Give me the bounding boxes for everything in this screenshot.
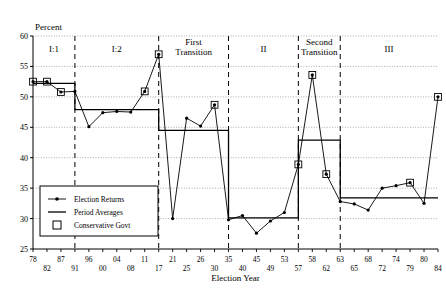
data-point-1882 [45, 80, 48, 83]
x-tick-label-1935: 35 [225, 255, 233, 264]
data-point-1878 [31, 80, 34, 83]
x-tick-label-1980: 80 [420, 255, 428, 264]
data-point-1935 [227, 218, 230, 221]
x-tick-label-1965: 65 [350, 264, 358, 273]
x-tick-label-1904: 04 [113, 255, 121, 264]
data-point-1968 [367, 208, 370, 211]
x-tick-label-1926: 26 [197, 255, 205, 264]
legend-label-conservative-govt: Conservative Govt [74, 221, 131, 230]
period-label-3: II [260, 44, 266, 54]
x-tick-label-1891: 91 [71, 264, 79, 273]
data-point-1963 [339, 200, 342, 203]
y-tick-label-25: 25 [20, 245, 28, 254]
x-tick-label-1963: 63 [336, 255, 344, 264]
election-returns-chart: 2530354045505560PercentI:1I:2FirstTransi… [0, 0, 446, 295]
x-tick-label-1908: 08 [127, 264, 135, 273]
x-tick-label-1945: 45 [253, 255, 261, 264]
data-point-1962 [325, 173, 328, 176]
data-point-1891 [73, 90, 76, 93]
period-label-0: I:1 [49, 44, 59, 54]
period-label-4-line1: Second [306, 37, 333, 47]
data-point-1972 [381, 187, 384, 190]
x-tick-label-1921: 21 [169, 255, 177, 264]
x-tick-label-1911: 11 [141, 255, 148, 264]
data-point-1930 [213, 103, 216, 106]
data-point-1965 [353, 202, 356, 205]
data-point-1945 [255, 232, 258, 235]
data-point-1949 [269, 219, 272, 222]
x-tick-label-1882: 82 [43, 264, 51, 273]
data-point-1925 [185, 117, 188, 120]
data-point-1887 [59, 90, 62, 93]
y-tick-label-55: 55 [20, 62, 28, 71]
x-tick-label-1925: 25 [183, 264, 191, 273]
x-tick-label-1972: 72 [378, 264, 386, 273]
data-point-1921 [171, 217, 174, 220]
x-tick-label-1896: 96 [85, 255, 93, 264]
legend-label-election-returns: Election Returns [74, 195, 124, 204]
data-point-1979 [408, 181, 411, 184]
data-point-1896 [87, 125, 90, 128]
x-tick-label-1949: 49 [267, 264, 275, 273]
x-tick-label-1957: 57 [295, 264, 303, 273]
data-point-1974 [395, 184, 398, 187]
data-point-1940 [241, 214, 244, 217]
y-tick-label-45: 45 [20, 123, 28, 132]
y-tick-label-60: 60 [20, 32, 28, 41]
data-point-1904 [115, 110, 118, 113]
y-axis-unit-label: Percent [35, 22, 62, 32]
legend-label-period-averages: Period Averages [74, 208, 123, 217]
data-point-1917 [157, 53, 160, 56]
x-tick-label-1958: 58 [309, 255, 317, 264]
x-tick-label-1984: 84 [434, 264, 442, 273]
y-tick-label-30: 30 [20, 215, 28, 224]
data-point-1908 [129, 110, 132, 113]
data-point-1984 [436, 95, 439, 98]
chart-canvas: 2530354045505560PercentI:1I:2FirstTransi… [0, 0, 446, 295]
x-tick-label-1930: 30 [211, 264, 219, 273]
x-tick-label-1917: 17 [155, 264, 163, 273]
x-tick-label-1940: 40 [239, 264, 247, 273]
x-tick-label-1953: 53 [281, 255, 289, 264]
period-label-5: III [385, 44, 394, 54]
x-axis-title: Election Year [211, 273, 260, 283]
data-point-1958 [311, 73, 314, 76]
period-label-2-line1: First [185, 37, 202, 47]
data-point-1953 [283, 211, 286, 214]
y-tick-label-35: 35 [20, 184, 28, 193]
y-tick-label-40: 40 [20, 154, 28, 163]
data-point-1980 [422, 202, 425, 205]
legend-dot-election-returns [55, 197, 59, 201]
data-point-1900 [101, 111, 104, 114]
x-tick-label-1968: 68 [364, 255, 372, 264]
x-tick-label-1979: 79 [406, 264, 414, 273]
x-tick-label-1900: 00 [99, 264, 107, 273]
period-label-4-line2: Transition [301, 47, 338, 57]
y-tick-label-50: 50 [20, 93, 28, 102]
x-tick-label-1887: 87 [57, 255, 65, 264]
data-point-1911 [143, 90, 146, 93]
period-label-1: I:2 [112, 44, 122, 54]
x-tick-label-1974: 74 [392, 255, 400, 264]
data-point-1926 [199, 124, 202, 127]
data-point-1957 [297, 163, 300, 166]
x-tick-label-1962: 62 [323, 264, 331, 273]
period-label-2-line2: Transition [175, 47, 212, 57]
x-tick-label-1878: 78 [29, 255, 37, 264]
